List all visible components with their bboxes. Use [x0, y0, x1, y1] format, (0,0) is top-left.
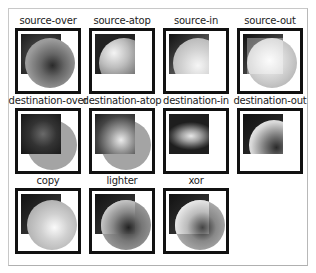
example-canvas	[89, 188, 155, 254]
example-canvas	[89, 28, 155, 94]
cleared-region	[249, 154, 299, 174]
overlap-gradient	[101, 200, 135, 234]
example-canvas	[237, 108, 303, 174]
example-canvas	[163, 108, 229, 174]
source-circle	[99, 38, 135, 74]
overlap-gradient	[175, 200, 209, 234]
example-canvas	[163, 28, 229, 94]
transparent-overlap	[247, 38, 283, 74]
destination-square	[95, 34, 135, 74]
example-canvas	[163, 188, 229, 254]
example-canvas	[89, 108, 155, 174]
composite-examples-panel: source-over source-atop source-in source…	[8, 8, 308, 266]
example-canvas	[15, 28, 81, 94]
example-canvas	[15, 188, 81, 254]
destination-square	[95, 114, 135, 154]
source-circle	[27, 200, 77, 250]
source-circle	[25, 38, 75, 88]
source-circle	[173, 38, 209, 74]
example-canvas	[237, 28, 303, 94]
example-canvas	[15, 108, 81, 174]
overlap-region	[175, 200, 209, 234]
example-label: xor	[151, 175, 241, 187]
destination-square	[169, 34, 209, 74]
destination-square	[169, 114, 209, 154]
overlap-region	[101, 200, 135, 234]
example-label: source-out	[225, 15, 315, 27]
example-label: destination-out	[225, 95, 315, 107]
destination-square	[21, 114, 61, 154]
